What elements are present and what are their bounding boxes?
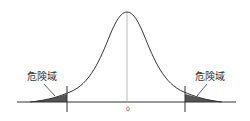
normal-curve-diagram	[0, 0, 250, 121]
right-region-label: 危険域	[195, 72, 225, 82]
right-label-pointer	[197, 84, 207, 96]
center-value-label: 0	[126, 106, 130, 112]
bell-curve	[30, 12, 222, 102]
left-label-pointer	[44, 84, 55, 96]
left-region-label: 危険域	[27, 72, 57, 82]
